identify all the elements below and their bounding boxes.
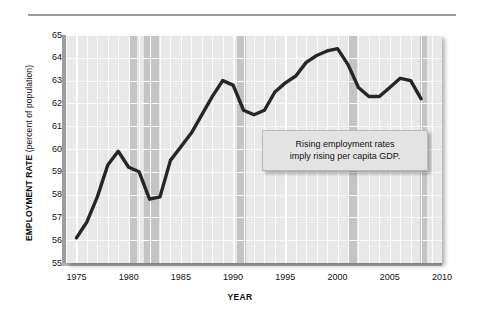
chart-figure: EMPLOYMENT RATE (percent of population) … <box>0 0 480 320</box>
y-tick-label: 55 <box>38 259 62 268</box>
y-tick-label: 61 <box>38 122 62 131</box>
top-divider-rule <box>28 14 456 16</box>
annotation-line-2: imply rising per capita GDP. <box>269 150 421 162</box>
x-axis-ticks: 19751980198519901995200020052010 <box>0 272 480 286</box>
y-tick-label: 64 <box>38 53 62 62</box>
y-tick-label: 57 <box>38 213 62 222</box>
x-tick-label: 2005 <box>370 272 410 282</box>
x-axis-title: YEAR <box>0 292 480 302</box>
y-axis-title: EMPLOYMENT RATE (percent of population) <box>24 38 34 268</box>
annotation-callout: Rising employment rates imply rising per… <box>262 130 428 171</box>
y-tick-label: 62 <box>38 99 62 108</box>
y-tick-label: 60 <box>38 145 62 154</box>
y-tick-label: 63 <box>38 76 62 85</box>
x-tick-label: 1985 <box>161 272 201 282</box>
y-tick-label: 59 <box>38 167 62 176</box>
x-tick-label: 2010 <box>422 272 462 282</box>
y-axis-title-main: EMPLOYMENT RATE <box>24 155 34 241</box>
x-tick-label: 2000 <box>318 272 358 282</box>
x-tick-label: 1975 <box>56 272 96 282</box>
x-tick-label: 1990 <box>213 272 253 282</box>
x-tick-label: 1980 <box>109 272 149 282</box>
x-tick-label: 1995 <box>265 272 305 282</box>
y-axis-title-units: (percent of population) <box>24 65 34 152</box>
y-tick-label: 65 <box>38 31 62 40</box>
annotation-line-1: Rising employment rates <box>269 138 421 150</box>
x-axis-spine <box>62 263 442 266</box>
y-tick-label: 56 <box>38 236 62 245</box>
y-tick-label: 58 <box>38 190 62 199</box>
